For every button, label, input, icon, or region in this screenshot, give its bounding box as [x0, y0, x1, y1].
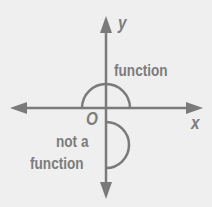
- not-a-label: not a: [56, 133, 88, 151]
- function-label: function: [114, 62, 168, 80]
- y-axis-label: y: [118, 14, 127, 32]
- y-axis-down-arrow-icon: [100, 182, 112, 199]
- origin-label: O: [86, 110, 98, 128]
- y-axis-up-arrow-icon: [100, 16, 112, 33]
- x-axis-left-arrow-icon: [10, 102, 27, 114]
- diagram-graphic: [0, 0, 212, 207]
- not-function-semicircle: [106, 122, 129, 168]
- coordinate-diagram: y x O function not a function: [0, 0, 212, 207]
- x-axis-label: x: [191, 114, 200, 132]
- function-label-2: function: [30, 155, 84, 173]
